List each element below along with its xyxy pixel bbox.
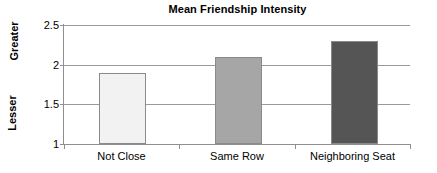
- y-tick-label-1-5: 1.5: [35, 99, 59, 110]
- mean-friendship-intensity-chart: Mean Friendship Intensity 2.5 2 1.5 1 Gr…: [0, 0, 437, 173]
- gridline-2-5: [64, 25, 410, 26]
- bar-neighboring-seat: [331, 41, 378, 144]
- x-tick-mark-1: [179, 145, 180, 149]
- y-tick-label-2-5: 2.5: [35, 20, 59, 31]
- y-tick-mark-2-0: [60, 65, 64, 66]
- y-axis-label-lesser: Lesser: [6, 91, 18, 135]
- x-category-label-neighboring-seat: Neighboring Seat: [295, 150, 410, 162]
- x-tick-mark-2: [295, 145, 296, 149]
- bar-same-row: [215, 57, 262, 144]
- plot-area: [64, 25, 410, 144]
- x-category-label-same-row: Same Row: [179, 150, 295, 162]
- y-axis-label-greater: Greater: [8, 18, 20, 64]
- x-category-label-not-close: Not Close: [64, 150, 179, 162]
- x-axis-line: [63, 144, 411, 145]
- bar-not-close: [99, 73, 146, 144]
- y-tick-mark-1-5: [60, 104, 64, 105]
- y-tick-mark-2-5: [60, 25, 64, 26]
- y-tick-label-2-0: 2: [35, 60, 59, 71]
- x-tick-mark-0: [64, 145, 65, 149]
- y-tick-label-1-0: 1: [35, 139, 59, 150]
- chart-title: Mean Friendship Intensity: [64, 3, 411, 15]
- x-tick-mark-3: [410, 145, 411, 149]
- y-axis-tick-labels: 2.5 2 1.5 1: [33, 25, 59, 144]
